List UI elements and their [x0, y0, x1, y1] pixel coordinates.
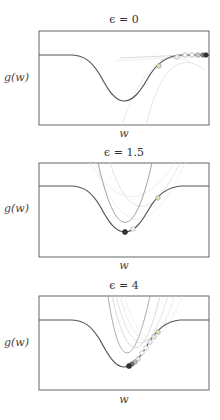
panel-2-plot	[39, 163, 209, 257]
panel-1-plot	[39, 31, 209, 130]
charts-svg	[0, 0, 220, 420]
panel-3-plot	[39, 296, 209, 390]
